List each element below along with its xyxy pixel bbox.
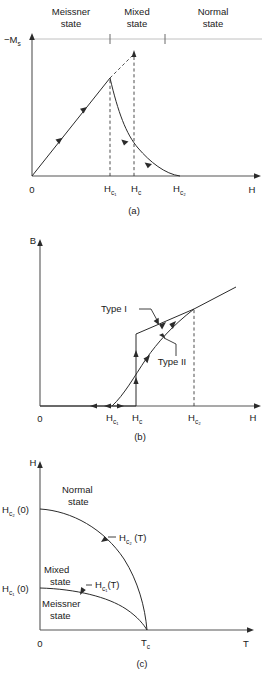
panel-b-arrow-jump-2 (133, 350, 138, 357)
panel-b-origin-label: 0 (37, 413, 42, 424)
panel-c-x-tick-label-tc: Tc (141, 637, 151, 650)
panel-b-tick-label-hc2: Hc₂ (188, 412, 201, 425)
panel-c-region-normal-line2: state (68, 496, 89, 507)
panel-a-region-meissner-line1: Meissner (52, 6, 91, 17)
panel-b-y-axis-label: B (30, 235, 36, 246)
panel-b-x-axis-label: H (250, 412, 257, 423)
panel-c-y-axis-label: H (30, 457, 37, 468)
panel-c-curve-label-hc1: Hc₁(T) (95, 579, 120, 592)
panel-a-x-axis-arrow (254, 173, 261, 179)
panel-c-region-meissner-line1: Meissner (42, 598, 81, 609)
panel-c-phase-diagram: H T Hc₂ (0) Hc₁ (0) Normal state Mixed s… (0, 445, 269, 675)
panel-a-arrow-rise-2 (80, 107, 87, 114)
panel-a-y-axis-arrow (29, 33, 35, 40)
panel-a-arrow-rise-1 (56, 138, 63, 145)
panel-a-region-normal-line1: Normal (198, 6, 229, 17)
panel-c-region-meissner-line2: state (50, 610, 71, 621)
panel-a-tick-label-hc: Hc (131, 183, 142, 196)
panel-b-curve-typeI-top (136, 328, 150, 334)
panel-c-y-axis-arrow (37, 461, 43, 468)
panel-b-label-type-ii: Type II (158, 356, 187, 367)
panel-c-curve-hc1 (40, 588, 147, 630)
panel-b-leader-type-i (139, 309, 157, 320)
panel-b-x-axis-arrow (254, 403, 261, 409)
panel-a-region-meissner-line2: state (61, 18, 82, 29)
figure-root: Meissner state Mixed state Normal state … (0, 0, 269, 675)
panel-a-tick-label-hc1: Hc₁ (104, 183, 117, 196)
panel-b-curve-normal-line (194, 287, 236, 309)
panel-b-arrow-axis-3 (117, 403, 124, 408)
panel-a-origin-label: 0 (29, 184, 34, 195)
panel-c-leader-hc1-arrow (80, 587, 86, 595)
panel-a-caption: (a) (128, 205, 140, 216)
panel-a-arrow-decay-1 (121, 139, 128, 145)
panel-a-arrow-decay-2 (145, 163, 152, 169)
panel-a-svg: Meissner state Mixed state Normal state … (0, 0, 269, 225)
panel-c-svg: H T Hc₂ (0) Hc₁ (0) Normal state Mixed s… (0, 445, 269, 675)
panel-a-x-axis-label: H (249, 184, 256, 195)
panel-c-origin-label: 0 (37, 638, 42, 649)
panel-c-y-tick-label-hc1: Hc₁ (0) (2, 583, 29, 596)
panel-a-curve-meissner-rise (32, 78, 110, 176)
panel-a-magnetization-chart: Meissner state Mixed state Normal state … (0, 0, 269, 225)
panel-b-leader-type-ii (164, 338, 176, 356)
panel-c-caption: (c) (136, 658, 147, 669)
panel-c-x-axis-label: T (243, 638, 249, 649)
panel-c-region-normal-line1: Normal (62, 484, 93, 495)
panel-b-arrow-axis-1 (90, 403, 97, 408)
panel-b-y-axis-arrow (37, 239, 43, 246)
panel-c-y-tick-label-hc2: Hc₂ (0) (2, 504, 29, 517)
panel-a-region-mixed-line2: state (127, 18, 148, 29)
panel-a-tick-label-hc2: Hc₂ (173, 183, 186, 196)
panel-a-y-axis-label: −Ms (4, 34, 21, 47)
panel-a-region-mixed-line1: Mixed (124, 6, 149, 17)
panel-b-tick-label-hc1: Hc₁ (106, 412, 119, 425)
panel-a-region-normal-line2: state (203, 18, 224, 29)
panel-b-svg: B H Type (0, 225, 269, 445)
panel-b-tick-label-hc: Hc (132, 412, 143, 425)
panel-b-induction-chart: B H Type (0, 225, 269, 445)
panel-a-curve-mixed-decay (110, 78, 180, 176)
panel-c-curve-label-hc2: Hc₂ (T) (119, 532, 147, 545)
panel-b-label-type-i: Type I (101, 303, 127, 314)
panel-a-curve-ideal-dashed (110, 54, 134, 78)
panel-b-arrow-axis-2 (104, 403, 111, 408)
panel-b-caption: (b) (134, 431, 146, 442)
panel-c-region-mixed-line1: Mixed (44, 564, 69, 575)
panel-c-x-axis-arrow (247, 627, 254, 633)
panel-c-region-mixed-line2: state (50, 576, 71, 587)
